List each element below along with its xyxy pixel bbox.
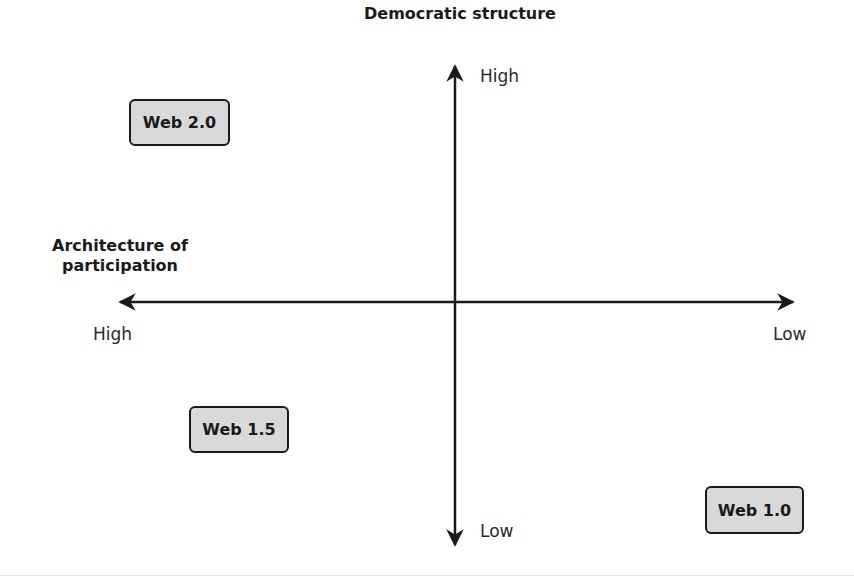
vertical-axis-low-label: Low <box>480 521 513 541</box>
vertical-axis-title: Democratic structure <box>360 4 560 24</box>
node-web-1-5: Web 1.5 <box>189 406 289 453</box>
horizontal-axis-title-line1: Architecture of <box>20 236 220 256</box>
horizontal-axis-title: Architecture of participation <box>20 236 220 276</box>
horizontal-axis-title-line2: participation <box>20 256 220 276</box>
node-web-2-0: Web 2.0 <box>129 99 230 146</box>
bottom-border <box>0 575 854 576</box>
horizontal-axis-low-label: Low <box>773 324 806 344</box>
node-web-1-0: Web 1.0 <box>705 486 804 534</box>
vertical-axis-high-label: High <box>480 66 519 86</box>
horizontal-axis-high-label: High <box>93 324 132 344</box>
